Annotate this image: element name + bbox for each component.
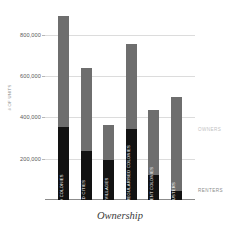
bars-group: PLANNED COLONIESWALLED CITIESURBAN VILLA… — [45, 14, 195, 200]
bar-segment-owners[interactable] — [126, 44, 137, 129]
bar-segment-owners[interactable] — [148, 110, 159, 175]
bar-segment-renters[interactable] — [126, 129, 137, 200]
plot-area: 200,000400,000600,000800,000 PLANNED COL… — [45, 14, 195, 200]
bar-column[interactable]: UNAUTHORIZED AND REGULARISED COLONIES — [126, 44, 137, 200]
bar-column[interactable]: WALLED CITIES — [81, 68, 92, 200]
y-axis-tick-label: 400,000 — [20, 114, 41, 120]
y-axis-tick-label: 200,000 — [20, 156, 41, 162]
y-axis-title: # OF UNITS — [7, 76, 12, 120]
bar-segment-renters[interactable] — [103, 160, 114, 200]
stacked-bar-chart: # OF UNITS 200,000400,000600,000800,000 … — [0, 0, 236, 231]
bar-segment-renters[interactable] — [58, 127, 69, 200]
bar-segment-owners[interactable] — [81, 68, 92, 152]
bar-column[interactable]: JJ CLUSTERS — [171, 97, 182, 200]
y-axis-tick-label: 800,000 — [20, 32, 41, 38]
bar-segment-renters[interactable] — [171, 191, 182, 200]
bar-column[interactable]: PLANNED COLONIES — [58, 16, 69, 200]
legend-label-renters: RENTERS — [198, 188, 223, 193]
bar-segment-renters[interactable] — [148, 175, 159, 200]
bar-column[interactable]: RESETTLEMENT COLONIES — [148, 110, 159, 200]
bar-segment-owners[interactable] — [103, 125, 114, 160]
bar-segment-owners[interactable] — [171, 97, 182, 191]
bar-segment-owners[interactable] — [58, 16, 69, 127]
x-axis-title: Ownership — [45, 210, 195, 221]
legend-label-owners: OWNERS — [198, 127, 221, 132]
y-axis-tick-label: 600,000 — [20, 73, 41, 79]
bar-column[interactable]: URBAN VILLAGES — [103, 125, 114, 200]
bar-segment-renters[interactable] — [81, 151, 92, 200]
